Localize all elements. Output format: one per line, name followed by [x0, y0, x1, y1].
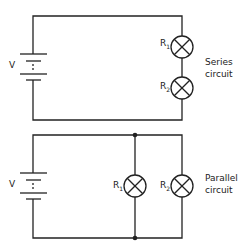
series-r1-label: R1: [160, 38, 170, 50]
parallel-r1-label: R1: [113, 180, 123, 192]
parallel-title-line1: Parallel: [205, 173, 238, 183]
parallel-lamp-r2-icon: [171, 175, 193, 197]
junction-bottom-icon: [133, 236, 138, 241]
parallel-title-line2: circuit: [205, 185, 233, 195]
series-wire: [33, 16, 182, 120]
series-lamp-r2-icon: [171, 77, 193, 99]
series-lamp-r1-icon: [171, 36, 193, 58]
junction-top-icon: [133, 133, 138, 138]
series-battery-icon: [20, 54, 47, 80]
parallel-voltage-label: V: [9, 179, 16, 189]
series-r2-label: R2: [160, 81, 170, 93]
circuit-diagram: V R1 R2 Series circuit V R1 R2 Parallel …: [0, 0, 245, 248]
parallel-r2-label: R2: [160, 180, 170, 192]
series-title-line1: Series: [205, 57, 233, 67]
parallel-battery-icon: [20, 173, 47, 199]
series-circuit: [20, 16, 193, 120]
series-voltage-label: V: [9, 60, 16, 70]
parallel-lamp-r1-icon: [124, 175, 146, 197]
series-title-line2: circuit: [205, 69, 233, 79]
